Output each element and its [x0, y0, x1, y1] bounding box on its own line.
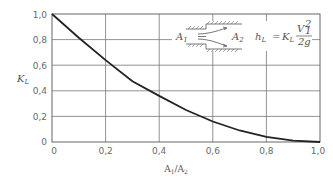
x-axis-ticks: 0 0,2 0,4 0,6 0,8 1,0: [51, 146, 325, 156]
svg-text:1,0: 1,0: [33, 10, 48, 20]
svg-text:0,4: 0,4: [33, 86, 48, 96]
svg-text:0: 0: [51, 146, 57, 156]
svg-text:0,4: 0,4: [152, 146, 167, 156]
svg-text:0,2: 0,2: [33, 112, 47, 122]
svg-text:2g: 2g: [297, 36, 311, 47]
svg-text:0,8: 0,8: [33, 35, 48, 45]
svg-text:0,8: 0,8: [259, 146, 274, 156]
svg-text:1,0: 1,0: [311, 146, 326, 156]
svg-text:0,6: 0,6: [206, 146, 221, 156]
chart: A1 A2 hL = KL V 2 1 2g 0 0,2 0,4 0,6 0,8…: [0, 0, 333, 182]
y-axis-label: KL: [16, 73, 29, 86]
svg-text:1: 1: [305, 25, 311, 36]
svg-text:0: 0: [41, 137, 47, 147]
x-axis-label: A1/A2: [163, 164, 188, 175]
svg-text:0,6: 0,6: [33, 61, 48, 71]
svg-text:0,2: 0,2: [98, 146, 112, 156]
svg-text:=: =: [272, 31, 280, 42]
y-axis-ticks: 0 0,2 0,4 0,6 0,8 1,0: [33, 10, 48, 148]
